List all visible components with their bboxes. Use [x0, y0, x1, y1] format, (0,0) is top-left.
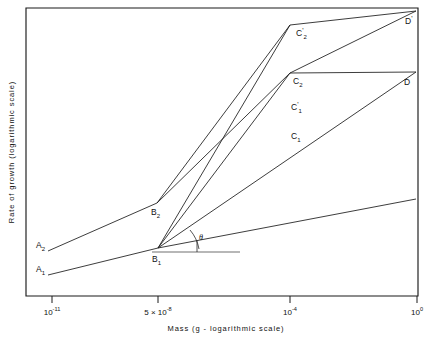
growth-rate-vs-mass-chart: θ10-115 × 10-810-4100A2A1B2B1C'2C2C'1C1D…	[0, 0, 438, 344]
annotation-C1prime: C'1	[291, 101, 302, 115]
annotation-A1: A1	[36, 264, 46, 276]
annotation-C1: C1	[291, 131, 301, 143]
y-axis-title: Rate of growth (logarithmic scale)	[7, 81, 16, 223]
annotation-C2prime: C'2	[296, 27, 307, 41]
annotation-D: D	[404, 77, 410, 87]
figure-container: θ10-115 × 10-810-4100A2A1B2B1C'2C2C'1C1D…	[0, 0, 438, 344]
x-tick-label-2: 10-4	[283, 306, 297, 317]
annotation-C2: C2	[293, 76, 303, 88]
annotation-B1: B1	[152, 254, 162, 266]
series-B1-steep-to-C2prime-knee	[158, 25, 290, 248]
x-axis-title: Mass (g - logarithmic scale)	[168, 324, 285, 333]
series-B1-C1-D	[158, 72, 416, 248]
series-A2-B2-C2prime-Dprime	[48, 11, 416, 251]
series-B2-C2-Dprime	[157, 11, 416, 203]
x-tick-label-0: 10-11	[44, 306, 61, 317]
x-tick-label-3: 100	[411, 306, 423, 317]
annotation-B2: B2	[151, 207, 161, 219]
angle-theta-label: θ	[199, 233, 203, 242]
annotation-A2: A2	[36, 240, 46, 252]
x-tick-label-1: 5 × 10-8	[144, 306, 171, 317]
plot-frame	[26, 8, 418, 296]
angle-arc	[190, 230, 199, 249]
annotation-Dprime: D'	[405, 15, 412, 27]
